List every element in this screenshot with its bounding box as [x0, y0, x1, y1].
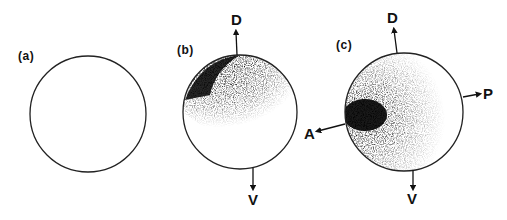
axis-label-dorsal-c: D — [387, 10, 398, 25]
posterior-arrow-c — [463, 94, 479, 97]
dorsal-arrow-b — [236, 32, 237, 55]
axis-label-anterior-c: A — [304, 126, 315, 141]
anterior-arrow-c — [318, 124, 345, 131]
axis-label-ventral-b: V — [248, 192, 258, 207]
embryo-sphere-a — [30, 56, 146, 172]
panel-label-c: (c) — [336, 39, 352, 51]
dorsal-arrow-c — [394, 30, 397, 53]
panel-a — [30, 56, 146, 172]
axis-label-posterior-c: P — [483, 86, 493, 101]
axis-label-ventral-c: V — [407, 191, 417, 206]
panel-label-a: (a) — [18, 50, 34, 62]
panel-b — [183, 32, 297, 188]
panel-label-b: (b) — [177, 44, 194, 56]
panel-c — [318, 30, 479, 188]
diagram-canvas — [0, 0, 507, 220]
axis-label-dorsal-b: D — [231, 12, 242, 27]
shading-b — [183, 50, 297, 136]
